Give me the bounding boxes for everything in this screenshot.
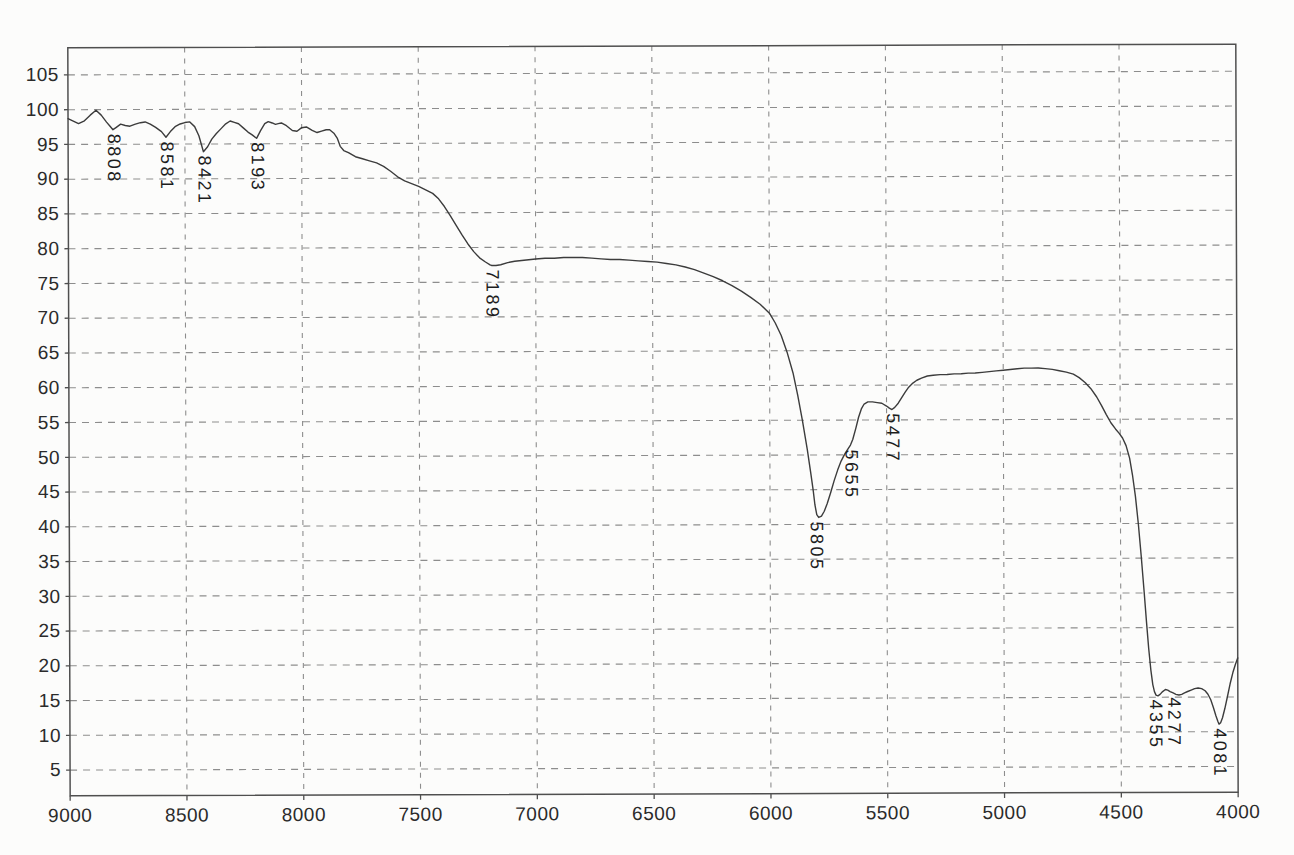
scanned-spectrum-page: 9000850080007500700065006000550050004500… xyxy=(0,0,1294,855)
axis-ticks xyxy=(64,71,1238,801)
plot-frame xyxy=(68,44,1238,796)
spectrum-trace xyxy=(68,107,1238,728)
plot-canvas xyxy=(0,0,1294,855)
nir-transmittance-chart: 9000850080007500700065006000550050004500… xyxy=(0,0,1294,855)
